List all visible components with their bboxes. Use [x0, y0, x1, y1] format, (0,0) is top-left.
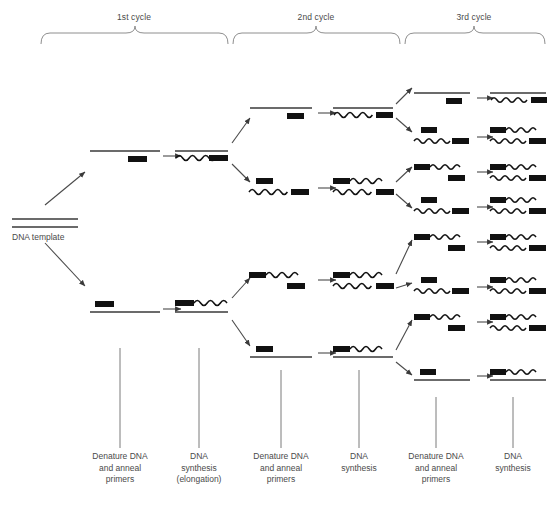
cycle2-row2-product: [333, 178, 394, 195]
cycle3-row1-denatured: [414, 93, 470, 104]
cycle3-row5-denatured: [414, 234, 465, 251]
cycle3-row8-denatured: [414, 369, 470, 380]
cycle3-row3-product: [490, 164, 546, 181]
branch-arrow-c2r2-down: [396, 194, 412, 208]
branch-arrow-c1u-up: [232, 118, 250, 143]
cycle3-row6-product: [490, 277, 546, 294]
cycle2-row4-denatured: [250, 346, 312, 357]
branch-arrow-c2r1-down: [396, 118, 412, 132]
cycle3-row7-product: [490, 314, 546, 331]
cycle3-row8-product: [490, 369, 546, 380]
cycle2-row4-product: [333, 346, 393, 357]
cycle1-lower-product: [175, 300, 228, 312]
branch-arrow-c2r3-down: [396, 283, 412, 288]
cycle-bracket-3: [405, 26, 545, 44]
branch-arrow-c2r2-up: [396, 167, 412, 182]
cycle3-row1-product: [490, 93, 547, 103]
branch-arrow-c2r1-up: [396, 88, 412, 104]
cycle3-row2-product: [490, 127, 546, 144]
cycle3-row4-product: [490, 197, 546, 214]
branch-arrow-c1u-down: [232, 164, 250, 182]
cycle3-row7-denatured: [414, 314, 465, 331]
branch-arrow-template-upper: [45, 172, 85, 205]
cycle3-row6-denatured: [414, 277, 469, 294]
branch-arrow-template-lower: [45, 243, 85, 286]
cycle2-row1-denatured: [250, 108, 312, 119]
branch-arrow-c1l-up: [232, 278, 250, 298]
cycle2-row3-denatured: [249, 272, 305, 289]
pcr-diagram-canvas: 1st cycle 2nd cycle 3rd cycle DNA templa…: [0, 0, 559, 509]
cycle-bracket-2: [233, 26, 400, 44]
cycle2-row3-product: [333, 272, 394, 289]
cycle2-row1-product: [333, 108, 393, 118]
pcr-artwork: [0, 0, 559, 509]
branch-arrow-c2r4-down: [396, 362, 412, 375]
branch-arrow-c1l-down: [232, 320, 250, 346]
cycle-bracket-1: [41, 26, 228, 44]
dna-template-strands: [12, 219, 78, 227]
cycle1-upper-product: [175, 151, 228, 161]
cycle3-row4-denatured: [414, 197, 469, 214]
cycle3-row2-denatured: [414, 127, 469, 144]
branch-arrow-c2r3-up: [396, 240, 412, 274]
cycle1-lower-denatured: [90, 301, 160, 312]
cycle3-row3-denatured: [414, 164, 465, 181]
cycle3-row5-product: [490, 234, 546, 251]
branch-arrow-c2r4-up: [396, 320, 412, 350]
cycle2-row2-denatured: [249, 178, 309, 195]
cycle1-upper-denatured: [90, 151, 160, 162]
